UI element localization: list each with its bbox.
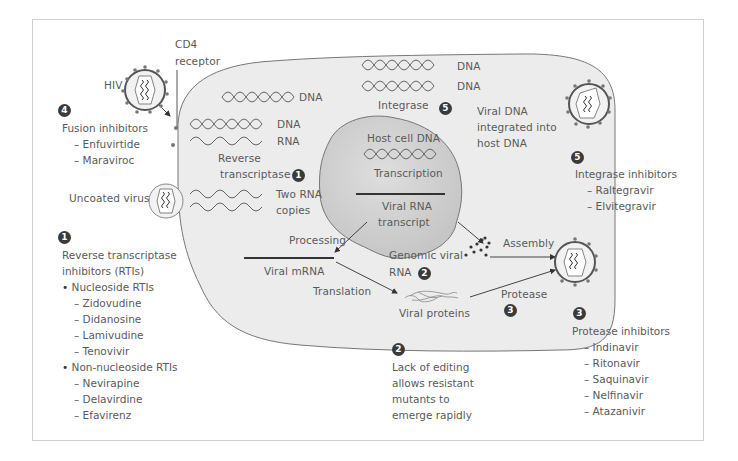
assembly-label: Assembly	[503, 237, 554, 250]
rt-label-line1: Reverse	[218, 152, 261, 165]
badge-integrase: 5	[571, 151, 584, 164]
protease-label: Protease	[501, 288, 547, 301]
viral-rna-label-1: Viral RNA	[382, 200, 432, 213]
viral-proteins-label: Viral proteins	[399, 307, 470, 320]
dna-label-top: DNA	[299, 91, 322, 104]
integrase-title: Integrase inhibitors	[575, 166, 677, 182]
cd4-label-line2: receptor	[175, 55, 220, 68]
drug-item: – Didanosine	[62, 311, 178, 327]
drug-item: – Lamivudine	[62, 327, 178, 343]
rti-list: Reverse transcriptase inhibitors (RTIs) …	[62, 247, 178, 423]
editing-note: Lack of editing allows resistant mutants…	[392, 359, 474, 423]
drug-item: – Saquinavir	[572, 371, 670, 387]
drug-item: – Ritonavir	[572, 355, 670, 371]
badge-protease: 3	[573, 307, 586, 320]
editing-line: emerge rapidly	[392, 407, 474, 423]
drug-item: – Raltegravir	[575, 182, 677, 198]
drug-item: – Zidovudine	[62, 295, 178, 311]
badge-protease-inline: 3	[504, 304, 517, 317]
rti-title-2: inhibitors (RTIs)	[62, 263, 178, 279]
drug-item: – Enfuvirtide	[62, 136, 148, 152]
drug-item: – Indinavir	[572, 339, 670, 355]
viral-dna-label-1: Viral DNA	[477, 105, 528, 118]
viral-mrna-label: Viral mRNA	[264, 265, 324, 278]
editing-line: allows resistant	[392, 375, 474, 391]
drug-item: – Maraviroc	[62, 152, 148, 168]
two-rna-label-2: copies	[276, 204, 310, 217]
protease-inhibitors-list: Protease inhibitors – Indinavir – Ritona…	[572, 323, 670, 419]
rt-rna-label: RNA	[277, 135, 300, 148]
protease-title: Protease inhibitors	[572, 323, 670, 339]
editing-line: mutants to	[392, 391, 474, 407]
integrase-label: Integrase	[378, 99, 429, 112]
rt-label-line2: transcriptase	[220, 168, 290, 181]
genomic-rna-label-2: RNA	[389, 266, 412, 279]
viral-dna-label-2: integrated into	[477, 121, 557, 134]
rti-title-1: Reverse transcriptase	[62, 247, 178, 263]
badge-editing: 2	[392, 343, 405, 356]
integrase-inhibitors-list: Integrase inhibitors – Raltegravir – Elv…	[575, 166, 677, 214]
uncoated-virus-icon	[149, 184, 183, 218]
drug-item: – Efavirenz	[62, 407, 178, 423]
hiv-virion-icon	[121, 65, 169, 114]
processing-label: Processing	[289, 234, 346, 247]
nucleoside-heading: Nucleoside RTIs	[62, 279, 178, 295]
transcription-label: Transcription	[374, 167, 443, 180]
fusion-inhibitors-list: Fusion inhibitors – Enfuvirtide – Maravi…	[62, 120, 148, 168]
non-nucleoside-heading: Non-nucleoside RTIs	[62, 359, 178, 375]
cd4-label-line1: CD4	[175, 38, 197, 51]
drug-item: – Elvitegravir	[575, 198, 677, 214]
badge-fusion: 4	[58, 104, 71, 117]
badge-genomic: 2	[418, 267, 431, 280]
genomic-rna-label-1: Genomic viral	[389, 249, 463, 262]
rt-dna-label: DNA	[277, 118, 300, 131]
viral-rna-label-2: transcript	[378, 216, 430, 229]
two-rna-label-1: Two RNA	[276, 188, 322, 201]
badge-integrase-inline: 5	[439, 102, 452, 115]
integrase-dna-label-1: DNA	[457, 60, 480, 73]
drug-item: – Atazanivir	[572, 403, 670, 419]
badge-rt-inline: 1	[292, 169, 305, 182]
drug-item: – Nelfinavir	[572, 387, 670, 403]
fusion-title: Fusion inhibitors	[62, 120, 148, 136]
drug-item: – Delavirdine	[62, 391, 178, 407]
badge-rt: 1	[58, 231, 71, 244]
editing-line: Lack of editing	[392, 359, 474, 375]
drug-item: – Tenovivir	[62, 343, 178, 359]
host-cell-dna-label: Host cell DNA	[367, 132, 440, 145]
viral-dna-label-3: host DNA	[477, 137, 527, 150]
integrase-dna-label-2: DNA	[457, 80, 480, 93]
drug-item: – Nevirapine	[62, 375, 178, 391]
uncoated-virus-label: Uncoated virus	[69, 192, 150, 205]
hiv-label: HIV	[104, 79, 122, 92]
translation-label: Translation	[313, 285, 371, 298]
